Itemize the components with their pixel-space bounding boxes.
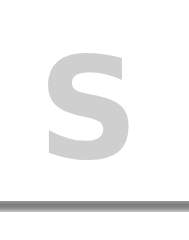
bottom-divider-bar xyxy=(0,201,189,212)
letter-s-glyph: S xyxy=(38,40,128,180)
